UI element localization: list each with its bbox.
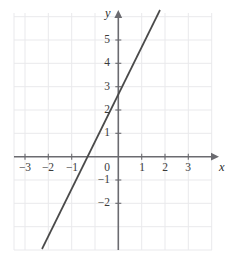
x-tick-label-minus-1: −1 xyxy=(61,162,83,174)
y-tick-label-minus-2: −2 xyxy=(88,197,110,209)
x-axis xyxy=(14,153,219,161)
grid-vertical xyxy=(14,13,212,250)
origin-label: 0 xyxy=(100,162,114,174)
y-tick-label-5: 5 xyxy=(96,34,110,46)
y-tick-label-3: 3 xyxy=(96,81,110,93)
y-tick-label-2: 2 xyxy=(96,104,110,116)
x-tick-label-3: 3 xyxy=(181,162,195,174)
x-tick-label-minus-2: −2 xyxy=(37,162,59,174)
y-axis-label: y xyxy=(105,7,111,20)
y-tick-label-1: 1 xyxy=(96,127,110,139)
y-tick-label-minus-1: −1 xyxy=(88,174,110,186)
y-tick-label-4: 4 xyxy=(96,57,110,69)
y-axis xyxy=(114,10,122,250)
coordinate-plane xyxy=(0,0,230,266)
x-tick-label-1: 1 xyxy=(135,162,149,174)
grid-horizontal xyxy=(14,17,212,250)
x-tick-label-minus-3: −3 xyxy=(14,162,36,174)
x-axis-label: x xyxy=(219,161,225,174)
x-tick-label-2: 2 xyxy=(158,162,172,174)
linear-graph-figure: 5 4 3 2 1 −1 −2 0 −3 −2 −1 1 2 3 x y xyxy=(0,0,230,266)
